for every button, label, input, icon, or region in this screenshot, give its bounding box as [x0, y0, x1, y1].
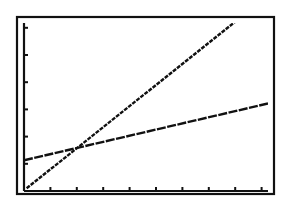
graph-plot	[0, 0, 281, 211]
calculator-graph-screen	[0, 0, 281, 211]
